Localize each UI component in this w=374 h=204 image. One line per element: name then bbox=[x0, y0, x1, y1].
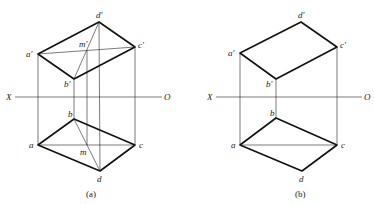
label-a: a bbox=[231, 140, 236, 150]
label-a-prime: a′ bbox=[26, 49, 34, 59]
axis-label-x: X bbox=[206, 92, 213, 102]
label-a-prime: a′ bbox=[228, 48, 236, 58]
label-a: a bbox=[29, 140, 34, 150]
label-c: c bbox=[341, 140, 345, 150]
label-b-prime: b′ bbox=[64, 79, 72, 89]
label-b: b bbox=[270, 108, 275, 118]
axis-label-x: X bbox=[5, 92, 12, 102]
label-b-prime: b′ bbox=[266, 79, 274, 89]
caption-b: (b) bbox=[295, 189, 306, 199]
label-d-prime: d′ bbox=[298, 10, 306, 20]
label-d-prime: d′ bbox=[96, 10, 104, 20]
figure-a: X O a′ b′ c′ d′ m′ a b c d m (a) bbox=[5, 10, 171, 199]
label-m: m bbox=[80, 147, 87, 157]
axis-label-o: O bbox=[364, 92, 371, 102]
figure-b: X O a′ b′ c′ d′ a b c d (b) bbox=[206, 10, 371, 199]
label-c-prime: c′ bbox=[340, 40, 347, 50]
label-b: b bbox=[68, 109, 73, 119]
projection-line-d bbox=[99, 22, 100, 171]
label-c-prime: c′ bbox=[138, 40, 145, 50]
top-view-plane bbox=[240, 118, 337, 171]
label-c: c bbox=[139, 140, 143, 150]
label-d: d bbox=[299, 174, 304, 184]
caption-a: (a) bbox=[86, 189, 96, 199]
front-diagonal-bd bbox=[74, 22, 99, 79]
front-view-plane bbox=[240, 22, 337, 79]
projection-diagram: X O a′ b′ c′ d′ m′ a b c d m (a) X O a′ bbox=[0, 0, 374, 204]
label-m-prime: m′ bbox=[79, 39, 88, 49]
axis-label-o: O bbox=[164, 92, 171, 102]
label-d: d bbox=[97, 174, 102, 184]
